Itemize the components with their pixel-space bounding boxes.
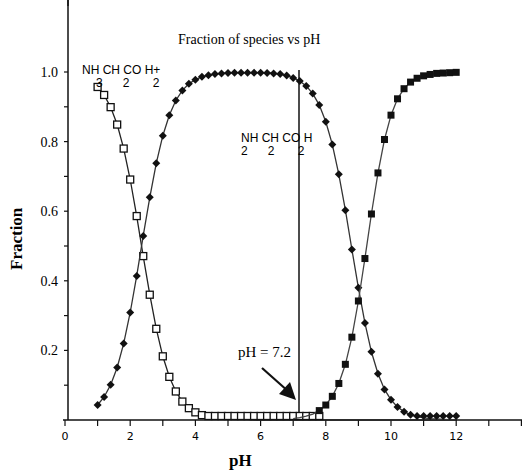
diamond-marker: [270, 69, 278, 77]
diamond-marker: [120, 339, 128, 347]
filled-square-marker: [374, 169, 381, 176]
y-axis-label: Fraction: [7, 207, 26, 270]
diamond-marker: [146, 193, 154, 201]
diamond-marker: [374, 370, 382, 378]
open-square-marker: [120, 145, 127, 152]
diamond-marker: [328, 140, 336, 148]
arrow-icon: [262, 368, 296, 400]
diamond-marker: [172, 97, 180, 105]
diamond-marker: [211, 70, 219, 78]
filled-square-marker: [401, 85, 408, 92]
y-tick-label: 0.8: [41, 135, 59, 150]
diamond-marker: [224, 69, 232, 77]
open-square-marker: [101, 91, 108, 98]
species-label-zwitterion: NH CH CO H: [241, 131, 312, 145]
x-tick-label: 10: [384, 430, 398, 443]
filled-square-marker: [420, 72, 427, 79]
diamond-marker: [380, 385, 388, 393]
diamond-marker: [452, 412, 460, 420]
open-square-marker: [107, 104, 114, 111]
diamond-marker: [217, 69, 225, 77]
diamond-marker: [407, 411, 415, 419]
filled-square-marker: [316, 407, 323, 414]
x-tick-label: 8: [322, 430, 329, 443]
y-tick-label: 0.4: [41, 274, 59, 289]
open-square-marker: [133, 213, 140, 220]
open-square-marker: [127, 176, 134, 183]
filled-square-marker: [453, 69, 460, 76]
diamond-marker: [204, 71, 212, 79]
diamond-marker: [152, 159, 160, 167]
filled-square-marker: [433, 70, 440, 77]
filled-square-marker: [440, 70, 447, 77]
filled-square-marker: [368, 210, 375, 217]
diamond-marker: [165, 111, 173, 119]
diamond-marker: [289, 74, 297, 82]
filled-square-marker: [355, 297, 362, 304]
diamond-marker: [400, 408, 408, 416]
diamond-marker: [159, 132, 167, 140]
x-ticks: 024681012: [62, 420, 522, 443]
y-tick-label: 1.0: [41, 65, 59, 80]
filled-square-marker: [381, 136, 388, 143]
filled-square-marker: [361, 255, 368, 262]
x-tick-label: 4: [192, 430, 199, 443]
filled-square-marker: [342, 361, 349, 368]
filled-square-marker: [414, 75, 421, 82]
diamond-marker: [335, 170, 343, 178]
open-square-marker: [179, 398, 186, 405]
open-square-marker: [159, 353, 166, 360]
species-label-zwitterion-subscripts: 2 2 2: [241, 144, 305, 158]
diamond-marker: [257, 69, 265, 77]
diamond-marker: [322, 118, 330, 126]
diamond-marker: [315, 101, 323, 109]
filled-square-marker: [329, 393, 336, 400]
diamond-marker: [341, 206, 349, 214]
y-ticks: 0.20.40.60.81.0: [41, 65, 69, 385]
y-tick-label: 0.2: [41, 343, 59, 358]
open-square-marker: [172, 388, 179, 395]
diamond-marker: [361, 319, 369, 327]
filled-square-marker: [388, 112, 395, 119]
diamond-marker: [107, 381, 115, 389]
diamond-marker: [113, 363, 121, 371]
diamond-marker: [276, 70, 284, 78]
diamond-marker: [348, 245, 356, 253]
filled-square-marker: [427, 71, 434, 78]
species-label-cation: NH CH CO H+: [82, 63, 160, 77]
open-square-marker: [153, 325, 160, 332]
y-tick-label: 0.6: [41, 204, 59, 219]
filled-square-marker: [407, 79, 414, 86]
filled-square-marker: [335, 380, 342, 387]
open-square-marker: [146, 291, 153, 298]
diamond-marker: [283, 71, 291, 79]
filled-square-marker: [322, 402, 329, 409]
x-tick-label: 0: [62, 430, 69, 443]
x-tick-label: 6: [257, 430, 264, 443]
ph-annotation: pH = 7.2: [238, 344, 291, 360]
filled-square-marker: [348, 334, 355, 341]
chart-title: Fraction of species vs pH: [178, 32, 320, 47]
diamond-marker: [263, 69, 271, 77]
curves: [94, 69, 461, 420]
species-fraction-chart: 0.20.40.60.81.0 024681012 Fraction of sp…: [0, 0, 528, 474]
species-label-cation-subscripts: 3 2 2: [96, 76, 160, 90]
diamond-marker: [126, 308, 134, 316]
x-axis-label: pH: [229, 451, 252, 470]
series-2: [94, 69, 461, 420]
open-square-marker: [114, 121, 121, 128]
open-square-marker: [166, 373, 173, 380]
x-tick-label: 12: [449, 430, 463, 443]
filled-square-marker: [394, 95, 401, 102]
filled-square-marker: [446, 69, 453, 76]
x-tick-label: 2: [127, 430, 134, 443]
series-3: [293, 69, 460, 419]
diamond-marker: [367, 348, 375, 356]
diamond-marker: [133, 272, 141, 280]
